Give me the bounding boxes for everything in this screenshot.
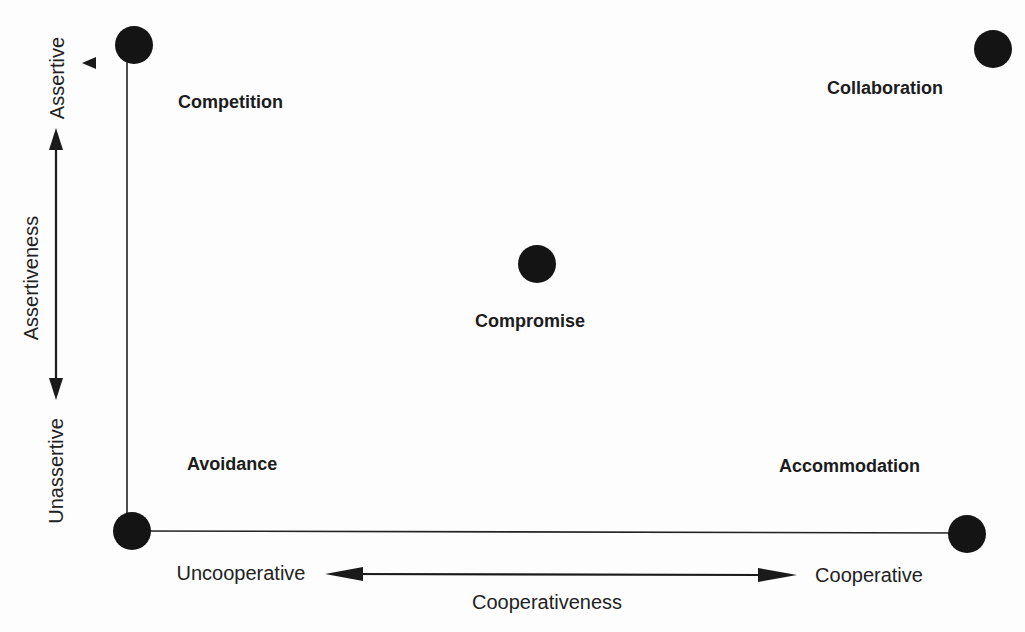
- avoidance-dot: [113, 512, 151, 550]
- horizontal-frame-line: [133, 531, 966, 533]
- accommodation-label: Accommodation: [779, 456, 920, 477]
- arrow-right-icon: [758, 568, 797, 582]
- accommodation-dot: [948, 515, 986, 553]
- small-arrowhead-icon: [82, 57, 96, 69]
- arrow-up-icon: [49, 128, 63, 150]
- competition-label: Competition: [178, 92, 283, 113]
- cooperativeness-axis-title: Cooperativeness: [472, 591, 622, 614]
- avoidance-label: Avoidance: [187, 454, 277, 475]
- collaboration-label: Collaboration: [827, 78, 943, 99]
- cooperative-label: Cooperative: [815, 564, 923, 587]
- collaboration-dot: [974, 30, 1012, 68]
- uncooperative-label: Uncooperative: [177, 562, 306, 585]
- conflict-modes-diagram: Competition Collaboration Compromise Avo…: [0, 0, 1025, 632]
- assertive-label: Assertive: [46, 37, 69, 119]
- assertiveness-axis-title: Assertiveness: [20, 216, 43, 341]
- arrow-down-icon: [49, 378, 63, 400]
- arrow-left-icon: [325, 567, 363, 581]
- competition-dot: [115, 26, 153, 64]
- cooperativeness-arrow-shaft: [345, 574, 770, 575]
- unassertive-label: Unassertive: [45, 418, 68, 524]
- compromise-dot: [518, 245, 556, 283]
- compromise-label: Compromise: [475, 311, 585, 332]
